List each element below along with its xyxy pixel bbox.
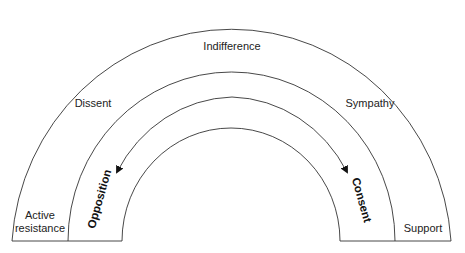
inner-arc [122, 128, 340, 241]
label-indifference: Indifference [203, 40, 260, 52]
attitude-spectrum-diagram: Indifference Dissent Sympathy Active res… [0, 0, 465, 253]
label-sympathy: Sympathy [346, 97, 395, 109]
label-active: Active [25, 209, 55, 221]
label-resistance: resistance [15, 222, 65, 234]
label-dissent: Dissent [75, 97, 112, 109]
outer-arc [12, 29, 451, 241]
label-consent: Consent [350, 176, 374, 224]
opposition-arrow [117, 97, 232, 172]
label-opposition: Opposition [85, 168, 113, 230]
label-support: Support [404, 222, 443, 234]
consent-arrow [232, 97, 347, 172]
